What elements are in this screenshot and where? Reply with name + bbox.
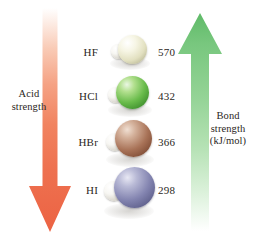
molecule-formula: HI — [66, 184, 98, 196]
molecule-formula: HBr — [66, 136, 98, 148]
molecule-formula: HCl — [66, 90, 98, 102]
bond-energy-value: 432 — [158, 90, 184, 102]
hbr-molecule-icon — [104, 117, 154, 167]
molecule-rows: HF 570 HCl 432 HBr — [66, 0, 184, 241]
iodine-atom — [114, 167, 155, 208]
hi-molecule-icon — [104, 165, 154, 215]
bond-strength-label: Bond strength (kJ/mol) — [200, 110, 256, 148]
molecule-formula: HF — [66, 46, 98, 58]
bond-energy-value: 366 — [158, 136, 184, 148]
acid-strength-label: Acid strength — [2, 88, 56, 113]
table-row: HBr 366 — [66, 117, 184, 167]
table-row: HCl 432 — [66, 73, 184, 119]
bond-energy-value: 298 — [158, 184, 184, 196]
acid-strength-line-1: Acid — [2, 88, 56, 101]
acid-bond-strength-figure: Acid strength Bond strength (kJ/mol) HF … — [0, 0, 256, 241]
chlorine-atom — [116, 76, 149, 109]
bromine-atom — [115, 120, 152, 157]
bond-energy-value: 570 — [158, 46, 184, 58]
table-row: HF 570 — [66, 31, 184, 73]
bond-strength-line-1: Bond — [200, 110, 256, 123]
hf-molecule-icon — [104, 27, 154, 77]
bond-strength-units: (kJ/mol) — [200, 135, 256, 148]
fluorine-atom — [118, 35, 147, 64]
acid-strength-line-2: strength — [2, 101, 56, 114]
table-row: HI 298 — [66, 163, 184, 217]
hcl-molecule-icon — [104, 71, 154, 121]
bond-strength-line-2: strength — [200, 123, 256, 136]
